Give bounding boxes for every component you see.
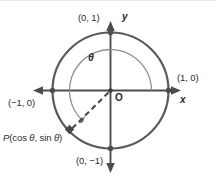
label-bottom-point: (0, −1) bbox=[76, 156, 103, 166]
y-axis-bottom-arrow bbox=[106, 163, 115, 173]
radius-to-p-dashed bbox=[72, 93, 109, 130]
label-top-point: (0, 1) bbox=[78, 13, 100, 23]
origin-label: O bbox=[115, 93, 123, 103]
x-axis-left-arrow bbox=[33, 86, 43, 95]
dot-origin bbox=[108, 88, 112, 92]
label-right-point: (1, 0) bbox=[177, 73, 199, 83]
dot-top bbox=[108, 30, 113, 35]
unit-circle-graphic bbox=[0, 1, 215, 177]
y-axis-top-arrow bbox=[106, 21, 115, 31]
dot-bottom bbox=[108, 146, 113, 151]
dot-right bbox=[166, 88, 171, 93]
point-p-label: P(cos θ, sin θ) bbox=[3, 133, 62, 143]
point-p-separator: , sin bbox=[34, 132, 53, 143]
point-p-open-paren: (cos bbox=[9, 132, 29, 143]
x-axis-label: x bbox=[180, 95, 185, 105]
unit-circle-figure: (0, 1) (1, 0) (−1, 0) (0, −1) y x O θ P(… bbox=[0, 0, 215, 177]
point-p-marker bbox=[65, 125, 74, 134]
axes-group bbox=[33, 21, 181, 173]
angle-theta-label: θ bbox=[88, 52, 94, 63]
y-axis-label: y bbox=[122, 12, 127, 22]
label-left-point: (−1, 0) bbox=[8, 98, 35, 108]
point-p-close-paren: ) bbox=[59, 132, 62, 143]
dot-left bbox=[50, 88, 55, 93]
